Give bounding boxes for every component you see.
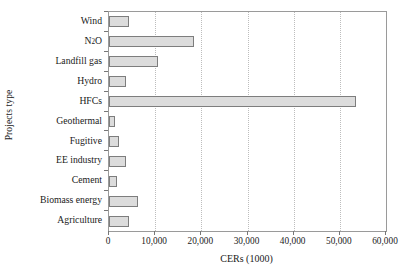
bar: [109, 196, 138, 207]
bar-row: [109, 191, 386, 211]
x-axis-title: CERs (1000): [108, 253, 385, 264]
x-axis-tick: [293, 231, 294, 235]
bar: [109, 136, 119, 147]
x-axis-tick: [154, 231, 155, 235]
bar-row: [109, 52, 386, 72]
y-axis-category-labels: WindN2OLandfill gasHydroHFCsGeothermalFu…: [16, 11, 106, 230]
x-axis-tick-label: 20,000: [188, 236, 214, 246]
x-axis-tick-label: 10,000: [141, 236, 167, 246]
bar-row: [109, 32, 386, 52]
x-axis-tick-label: 60,000: [372, 236, 398, 246]
bar-row: [109, 92, 386, 112]
bar: [109, 96, 356, 107]
bar: [109, 76, 126, 87]
bar-chart: Projects type WindN2OLandfill gasHydroHF…: [0, 0, 412, 276]
x-axis-tick: [385, 231, 386, 235]
y-axis-category-label: Biomass energy: [16, 190, 106, 210]
x-axis-tick-label: 40,000: [280, 236, 306, 246]
x-axis-tick-label: 50,000: [326, 236, 352, 246]
bar: [109, 36, 194, 47]
bar: [109, 156, 126, 167]
bars-layer: [109, 12, 386, 231]
x-axis-tick-label: 30,000: [234, 236, 260, 246]
bar-row: [109, 131, 386, 151]
bar-row: [109, 112, 386, 132]
bar: [109, 176, 117, 187]
y-axis-category-label: Fugitive: [16, 130, 106, 150]
x-axis-tick: [247, 231, 248, 235]
y-axis-category-label: Landfill gas: [16, 51, 106, 71]
y-axis-category-label: HFCs: [16, 91, 106, 111]
y-axis-category-label: Cement: [16, 170, 106, 190]
bar: [109, 116, 115, 127]
x-axis-tick: [339, 231, 340, 235]
bar-row: [109, 151, 386, 171]
x-axis-tick-label: 0: [106, 236, 111, 246]
bar: [109, 216, 129, 227]
y-axis-category-label: Geothermal: [16, 111, 106, 131]
y-axis-category-label: Wind: [16, 11, 106, 31]
y-axis-category-label: N2O: [16, 31, 106, 51]
bar: [109, 56, 158, 67]
plot-area: [108, 11, 387, 232]
bar-row: [109, 72, 386, 92]
x-axis-tick: [108, 231, 109, 235]
x-axis-tick-labels: 010,00020,00030,00040,00050,00060,000: [108, 236, 385, 250]
x-axis-tick: [200, 231, 201, 235]
y-axis-category-label: EE industry: [16, 150, 106, 170]
bar-row: [109, 12, 386, 32]
y-axis-category-label: Agriculture: [16, 210, 106, 230]
y-axis-category-label: Hydro: [16, 71, 106, 91]
y-axis-title-text: Projects type: [4, 90, 14, 141]
bar-row: [109, 171, 386, 191]
bar-row: [109, 211, 386, 231]
bar: [109, 16, 129, 27]
